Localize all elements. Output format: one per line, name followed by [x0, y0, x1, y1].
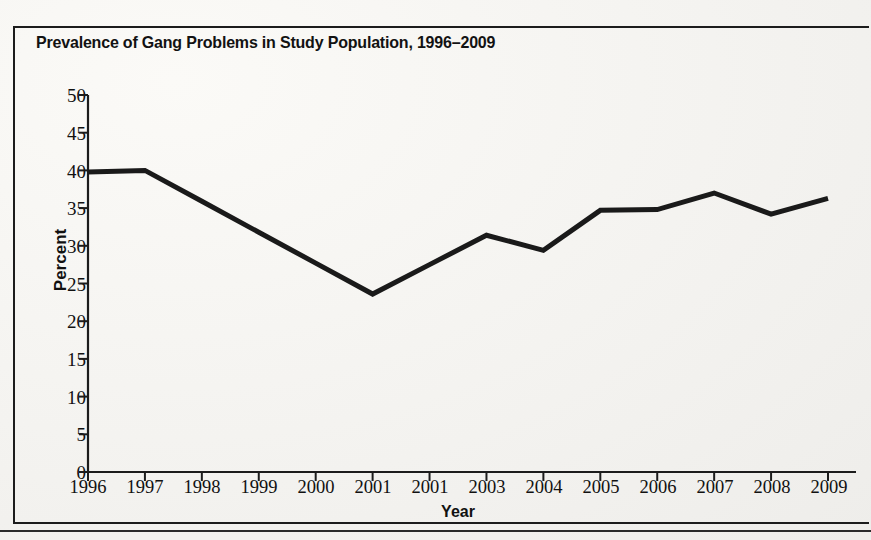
y-tick-label: 45 — [40, 124, 86, 143]
chart-title: Prevalence of Gang Problems in Study Pop… — [36, 33, 495, 52]
y-tick-label: 5 — [40, 425, 86, 444]
y-tick-label: 50 — [40, 86, 86, 105]
x-tick-label: 2009 — [797, 478, 861, 497]
y-tick-label: 15 — [40, 350, 86, 369]
x-tick-label: 2007 — [683, 478, 747, 497]
y-tick-label: 10 — [40, 388, 86, 407]
y-tick-label: 30 — [40, 237, 86, 256]
x-tick-label: 2004 — [512, 478, 576, 497]
x-tick-label: 2000 — [284, 478, 348, 497]
x-axis-title: Year — [88, 503, 828, 521]
y-tick-label: 35 — [40, 199, 86, 218]
x-tick-label: 2008 — [740, 478, 804, 497]
x-tick-label: 1998 — [170, 478, 234, 497]
x-tick-label: 2006 — [626, 478, 690, 497]
x-tick-label: 2001 — [341, 478, 405, 497]
x-tick-label: 1999 — [227, 478, 291, 497]
x-tick-label: 1997 — [113, 478, 177, 497]
page-bottom-rule — [0, 530, 871, 532]
figure-border — [13, 26, 869, 524]
x-tick-label: 2005 — [569, 478, 633, 497]
y-tick-label: 40 — [40, 162, 86, 181]
x-tick-label: 2001 — [398, 478, 462, 497]
x-tick-label: 1996 — [56, 478, 120, 497]
y-tick-label: 20 — [40, 312, 86, 331]
y-tick-label: 25 — [40, 275, 86, 294]
x-tick-label: 2003 — [455, 478, 519, 497]
